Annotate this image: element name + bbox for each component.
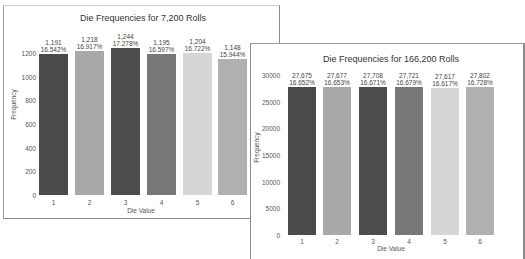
bar-die-1	[39, 54, 68, 195]
bar-value-label: 27,67516.652%	[289, 72, 315, 86]
bar-die-4	[147, 54, 176, 195]
chart-panel-166200-rolls: Die Frequencies for 166,200 RollsFrequen…	[250, 43, 525, 259]
x-tick-label: 3	[371, 238, 375, 245]
chart-title: Die Frequencies for 7,200 Rolls	[80, 13, 206, 23]
bar-percent: 16.728%	[467, 79, 493, 86]
bar-count: 1,191	[41, 39, 67, 46]
bar-count: 1,204	[185, 38, 211, 45]
x-tick-label: 1	[300, 238, 304, 245]
x-axis-label: Die Value	[127, 207, 155, 214]
y-tick-label: 15000	[250, 152, 280, 159]
y-tick-label: 400	[6, 144, 36, 151]
bar-value-label: 1,19116.542%	[41, 39, 67, 53]
x-tick-label: 6	[231, 199, 235, 206]
bar-value-label: 27,72116.679%	[396, 72, 422, 86]
x-tick-label: 4	[407, 238, 411, 245]
bar-percent: 16.679%	[396, 79, 422, 86]
bar-percent: 16.597%	[149, 46, 175, 53]
bar-percent: 17.278%	[113, 40, 139, 47]
y-tick-label: 200	[6, 168, 36, 175]
x-tick-label: 2	[335, 238, 339, 245]
bar-value-label: 27,61716.617%	[432, 73, 458, 87]
bar-percent: 16.653%	[324, 79, 350, 86]
bar-value-label: 27,67716.653%	[324, 72, 350, 86]
bar-die-6	[218, 59, 247, 195]
bar-die-2	[323, 87, 351, 235]
bar-value-label: 1,24417.278%	[113, 33, 139, 47]
x-tick-label: 4	[160, 199, 164, 206]
y-tick-label: 30000	[250, 72, 280, 79]
x-tick-label: 5	[196, 199, 200, 206]
bar-percent: 15.944%	[220, 51, 246, 58]
chart-panel-7200-rolls: Die Frequencies for 7,200 RollsFrequency…	[3, 5, 280, 219]
bar-count: 27,708	[360, 72, 386, 79]
x-tick-label: 1	[52, 199, 56, 206]
x-axis-label: Die Value	[377, 245, 405, 252]
bar-value-label: 1,19516.597%	[149, 39, 175, 53]
bar-die-5	[431, 88, 459, 235]
bar-die-5	[183, 53, 212, 195]
bar-value-label: 27,80216.728%	[467, 72, 493, 86]
bar-count: 27,617	[432, 73, 458, 80]
bar-count: 27,675	[289, 72, 315, 79]
x-tick-label: 5	[443, 238, 447, 245]
y-axis-label: Frequency	[10, 89, 17, 120]
y-tick-label: 800	[6, 97, 36, 104]
y-tick-label: 0	[250, 232, 280, 239]
bar-die-2	[75, 51, 104, 195]
bar-value-label: 1,21816.917%	[77, 36, 103, 50]
bar-value-label: 27,70816.671%	[360, 72, 386, 86]
bar-count: 1,218	[77, 36, 103, 43]
bar-percent: 16.917%	[77, 43, 103, 50]
y-tick-label: 1200	[6, 50, 36, 57]
bar-die-4	[395, 87, 423, 235]
bar-percent: 16.617%	[432, 80, 458, 87]
bar-percent: 16.722%	[185, 45, 211, 52]
bar-percent: 16.671%	[360, 79, 386, 86]
y-tick-label: 25000	[250, 98, 280, 105]
y-tick-label: 20000	[250, 125, 280, 132]
y-tick-label: 1000	[6, 73, 36, 80]
bar-percent: 16.542%	[41, 46, 67, 53]
bar-value-label: 1,14815.944%	[220, 44, 246, 58]
x-tick-label: 3	[124, 199, 128, 206]
bar-value-label: 1,20416.722%	[185, 38, 211, 52]
bar-count: 27,802	[467, 72, 493, 79]
y-tick-label: 0	[6, 192, 36, 199]
bar-count: 1,244	[113, 33, 139, 40]
y-tick-label: 10000	[250, 178, 280, 185]
bar-count: 1,148	[220, 44, 246, 51]
bar-die-3	[111, 48, 140, 195]
chart-title: Die Frequencies for 166,200 Rolls	[323, 54, 459, 64]
y-tick-label: 5000	[250, 205, 280, 212]
bar-count: 27,721	[396, 72, 422, 79]
bar-percent: 16.652%	[289, 79, 315, 86]
bar-count: 27,677	[324, 72, 350, 79]
y-tick-label: 600	[6, 121, 36, 128]
x-tick-label: 2	[88, 199, 92, 206]
bar-count: 1,195	[149, 39, 175, 46]
x-tick-label: 6	[478, 238, 482, 245]
bar-die-3	[359, 87, 387, 235]
bar-die-1	[288, 87, 316, 235]
bar-die-6	[466, 87, 494, 235]
